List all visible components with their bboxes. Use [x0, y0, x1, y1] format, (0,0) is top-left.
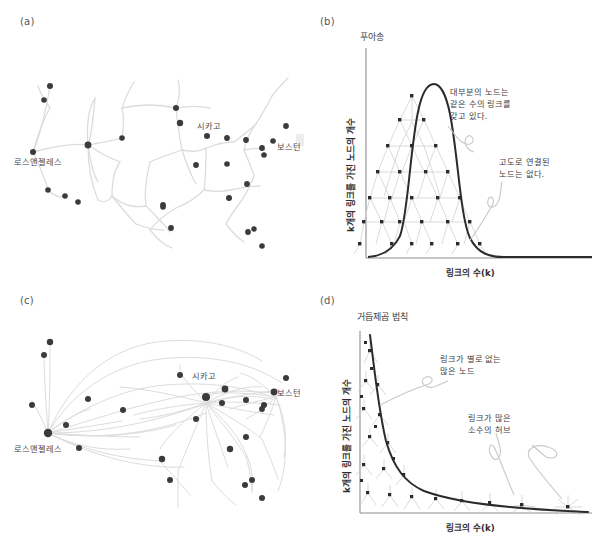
- figure-network-degree-distributions: (a): [0, 0, 600, 545]
- leader-line-4: [489, 433, 514, 495]
- map-label-chicago-a: 시카고: [197, 119, 221, 131]
- map-label-chicago-c: 시카고: [192, 369, 216, 381]
- panel-c-scalefree-network: (c): [0, 285, 300, 545]
- panel-d-tag: (d): [320, 295, 335, 306]
- airline-links: [32, 340, 286, 507]
- panel-a-tag: (a): [20, 16, 35, 27]
- panel-d-powerlaw-chart: (d) 거듭제곱 법칙: [300, 285, 600, 545]
- panel-c-map: [0, 285, 300, 545]
- panel-b-poisson-chart: (b) 푸아송: [300, 0, 600, 285]
- panel-b-y-axis-label: k개의 링크를 가진 노드의 개수: [344, 118, 356, 232]
- panel-a-map: [0, 0, 300, 285]
- annotation-most-nodes-same-links: 대부분의 노드는 같은 수의 링크를 갖고 있다.: [450, 87, 511, 123]
- leader-line-5: [528, 445, 562, 499]
- page-edge-artifact: [296, 134, 304, 146]
- panel-b-tag: (b): [320, 16, 335, 27]
- panel-c-tag: (c): [20, 295, 34, 306]
- highway-links: [33, 78, 288, 248]
- map-label-los-angeles-c: 로스앤젤레스: [14, 442, 61, 454]
- panel-a-random-network: (a): [0, 0, 300, 285]
- panel-d-x-axis-label: 링크의 수(k): [446, 521, 495, 533]
- annotation-many-nodes-few-links: 링크가 별로 없는 많은 노드: [440, 354, 501, 378]
- leader-line-3: [380, 377, 448, 405]
- panel-b-title: 푸아송: [360, 30, 384, 43]
- leader-line-2: [470, 182, 502, 240]
- network-nodes: [29, 339, 289, 501]
- panel-d-y-axis-label: k개의 링크를 가진 노드의 개수: [340, 379, 352, 493]
- annotation-few-hubs-many-links: 링크가 많은 소수의 허브: [468, 413, 511, 437]
- panel-d-title: 거듭제곱 법칙: [357, 310, 408, 323]
- panel-b-x-axis-label: 링크의 수(k): [446, 266, 495, 278]
- map-label-boston-c: 보스턴: [277, 386, 301, 398]
- map-label-los-angeles-a: 로스앤젤레스: [14, 155, 61, 167]
- annotation-no-highly-connected-nodes: 고도로 연결된 노드는 없다.: [499, 157, 550, 181]
